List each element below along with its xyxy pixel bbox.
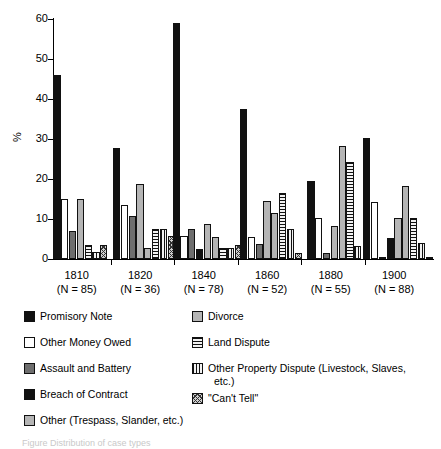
x-tick-label-1840: 1840(N = 78) xyxy=(172,268,236,296)
bar-1820-other-property-dispute-livestock-slaves-etc xyxy=(160,229,167,259)
legend-label: Other (Trespass, Slander, etc.) xyxy=(24,414,199,427)
y-tick-10: 10 xyxy=(22,214,48,223)
legend-swatch-icon xyxy=(24,337,35,348)
legend-label: Land Dispute xyxy=(192,336,436,349)
x-tick-year: 1900 xyxy=(363,268,427,282)
legend-item-divorce[interactable]: Divorce xyxy=(192,310,436,332)
y-tick-20: 20 xyxy=(22,174,48,183)
bar-1860-can-t-tell xyxy=(295,253,302,259)
x-tick-year: 1860 xyxy=(236,268,300,282)
legend-swatch-icon xyxy=(24,363,35,374)
legend: Promisory NoteOther Money OwedAssault an… xyxy=(0,310,441,435)
x-tick-sample-size: (N = 88) xyxy=(363,282,427,296)
bar-1900-can-t-tell xyxy=(426,257,433,259)
y-tick-0: 0 xyxy=(22,254,48,263)
y-tick-mark-40 xyxy=(48,99,53,100)
bar-1820-other-money-owed xyxy=(121,205,128,260)
x-tick-label-1900: 1900(N = 88) xyxy=(363,268,427,296)
bar-1820-other-trespass-slander-etc xyxy=(136,184,143,259)
x-axis-separator-5 xyxy=(365,260,366,265)
legend-item-promisory-note[interactable]: Promisory Note xyxy=(24,310,199,332)
y-tick-40: 40 xyxy=(22,94,48,103)
bar-1810-other-trespass-slander-etc xyxy=(77,199,84,259)
legend-label: Other Property Dispute (Livestock, Slave… xyxy=(192,362,436,375)
bar-1810-land-dispute xyxy=(85,245,92,259)
bar-1860-other-property-dispute-livestock-slaves-etc xyxy=(287,229,294,259)
bar-1880-other-property-dispute-livestock-slaves-etc xyxy=(354,246,361,259)
legend-swatch-icon xyxy=(192,337,203,348)
legend-item-land-dispute[interactable]: Land Dispute xyxy=(192,336,436,358)
x-tick-label-1880: 1880(N = 55) xyxy=(299,268,363,296)
bar-1880-divorce xyxy=(339,146,346,259)
bar-1860-divorce xyxy=(271,213,278,259)
bar-1900-other-trespass-slander-etc xyxy=(394,218,401,259)
bar-1860-other-trespass-slander-etc xyxy=(263,201,270,259)
bar-group-1840 xyxy=(173,18,243,259)
legend-label: "Can't Tell" xyxy=(192,392,436,405)
bar-group-1860 xyxy=(240,18,302,259)
x-tick-label-1810: 1810(N = 85) xyxy=(45,268,109,296)
bar-1900-other-property-dispute-livestock-slaves-etc xyxy=(418,243,425,259)
bar-1840-assault-and-battery xyxy=(188,229,195,259)
bar-1900-other-money-owed xyxy=(371,202,378,259)
bar-1900-promisory-note xyxy=(363,138,370,259)
legend-label: Assault and Battery xyxy=(24,362,199,375)
x-tick-sample-size: (N = 78) xyxy=(172,282,236,296)
bar-1810-other-money-owed xyxy=(61,199,68,259)
legend-swatch-icon xyxy=(24,415,35,426)
bar-1820-promisory-note xyxy=(113,148,120,259)
x-axis-separator-1 xyxy=(111,260,112,265)
legend-item-breach-of-contract[interactable]: Breach of Contract xyxy=(24,388,199,410)
y-tick-mark-10 xyxy=(48,219,53,220)
bar-1840-other-trespass-slander-etc xyxy=(204,224,211,259)
bar-group-1900 xyxy=(363,18,433,259)
x-axis-separator-2 xyxy=(174,260,175,265)
y-tick-mark-60 xyxy=(48,19,53,20)
bar-group-1810 xyxy=(53,18,108,259)
bar-1900-assault-and-battery xyxy=(379,257,386,259)
y-tick-mark-50 xyxy=(48,59,53,60)
x-tick-year: 1820 xyxy=(109,268,173,282)
bar-1840-breach-of-contract xyxy=(196,249,203,259)
bar-1820-divorce xyxy=(144,248,151,259)
x-tick-label-1860: 1860(N = 52) xyxy=(236,268,300,296)
legend-item-other-property-dispute-livestock-slaves[interactable]: Other Property Dispute (Livestock, Slave… xyxy=(192,362,436,388)
legend-label: Other Money Owed xyxy=(24,336,199,349)
bar-1810-assault-and-battery xyxy=(69,231,76,259)
y-tick-30: 30 xyxy=(22,134,48,143)
y-tick-mark-20 xyxy=(48,179,53,180)
legend-item-other-trespass-slander-etc[interactable]: Other (Trespass, Slander, etc.) xyxy=(24,414,199,436)
bar-1810-other-property-dispute-livestock-slaves-etc xyxy=(92,252,99,259)
y-axis-tick-labels: 0102030405060 xyxy=(22,0,48,260)
bar-1900-divorce xyxy=(402,186,409,259)
bar-1880-other-money-owed xyxy=(315,218,322,259)
bar-1810-can-t-tell xyxy=(100,245,107,259)
legend-label: Breach of Contract xyxy=(24,388,199,401)
x-tick-sample-size: (N = 52) xyxy=(236,282,300,296)
bar-1820-land-dispute xyxy=(152,229,159,259)
legend-item-other-money-owed[interactable]: Other Money Owed xyxy=(24,336,199,358)
legend-label-continuation: etc.) xyxy=(192,375,436,388)
bar-1840-other-money-owed xyxy=(180,236,187,259)
x-tick-year: 1840 xyxy=(172,268,236,282)
bar-1860-other-money-owed xyxy=(248,237,255,259)
legend-label: Promisory Note xyxy=(24,310,199,323)
x-tick-sample-size: (N = 85) xyxy=(45,282,109,296)
bar-1880-other-trespass-slander-etc xyxy=(331,226,338,259)
legend-item-assault-and-battery[interactable]: Assault and Battery xyxy=(24,362,199,384)
x-axis-separator-3 xyxy=(238,260,239,265)
y-tick-mark-0 xyxy=(48,259,53,260)
bar-1860-promisory-note xyxy=(240,109,247,259)
bar-1880-land-dispute xyxy=(346,162,353,259)
bar-groups xyxy=(53,18,434,259)
bar-1880-assault-and-battery xyxy=(323,253,330,259)
bar-1820-assault-and-battery xyxy=(129,216,136,259)
bar-1840-other-property-dispute-livestock-slaves-etc xyxy=(227,248,234,259)
legend-swatch-icon xyxy=(24,311,35,322)
bar-group-1820 xyxy=(113,18,175,259)
y-tick-mark-30 xyxy=(48,139,53,140)
chart-figure: % 0102030405060 1810(N = 85)1820(N = 36)… xyxy=(0,0,441,449)
legend-swatch-icon xyxy=(24,389,35,400)
legend-label: Divorce xyxy=(192,310,436,323)
legend-item-can-t-tell[interactable]: "Can't Tell" xyxy=(192,392,436,414)
